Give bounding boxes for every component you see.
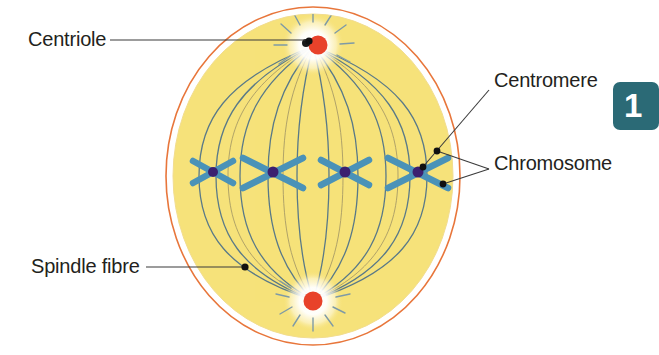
leader-dot-spindle	[241, 263, 248, 270]
centromere-3	[340, 167, 351, 178]
figure-number-badge: 1	[613, 82, 659, 130]
label-chromosome: Chromosome	[494, 152, 612, 174]
leader-dot-centromere	[420, 164, 427, 171]
label-spindle-fibre: Spindle fibre	[31, 255, 140, 277]
label-centriole: Centriole	[28, 28, 106, 50]
centromere-1	[208, 167, 218, 177]
leader-dot-chromosome-upper	[434, 148, 441, 155]
centromere-2	[268, 167, 279, 178]
leader-dot-centriole	[305, 37, 312, 44]
leader-dot-chromosome-lower	[440, 181, 447, 188]
centriole-body-bottom	[304, 292, 323, 311]
label-centromere: Centromere	[494, 69, 598, 91]
